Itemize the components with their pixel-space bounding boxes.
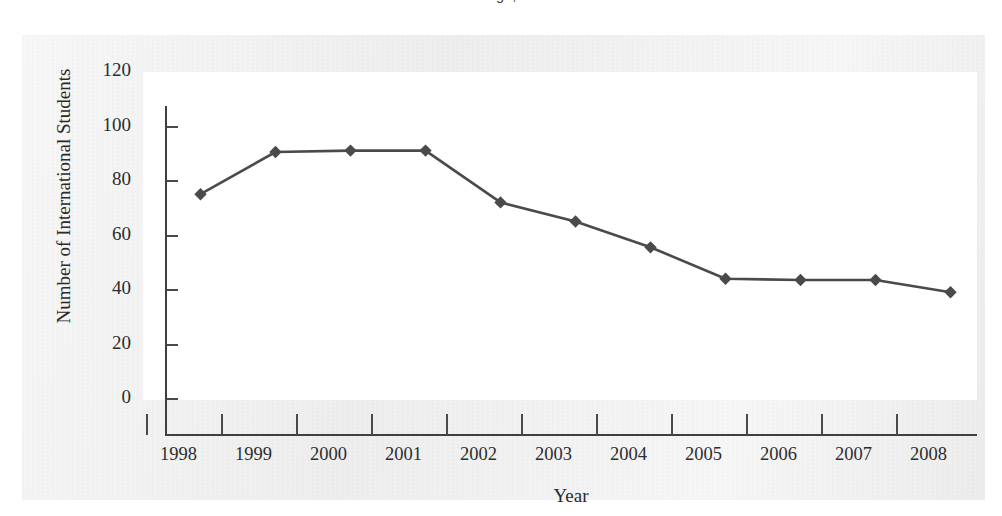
figure-number-label: FIGURE 10.1 (18, 0, 115, 4)
x-axis-tick (446, 414, 448, 435)
figure-panel: 120100806040200 199819992000200120022003… (22, 35, 985, 500)
x-axis-tick-label: 2003 (514, 444, 594, 465)
x-axis-tick (521, 414, 523, 435)
x-axis-tick (596, 414, 598, 435)
x-axis-tick-label: 2001 (364, 444, 444, 465)
x-axis-tick (146, 414, 148, 435)
x-axis-tick-label: 1999 (214, 444, 294, 465)
figure-caption: FIGURE 10.1 International Student Enroll… (0, 0, 1002, 8)
y-axis-line (165, 106, 167, 436)
y-axis-title: Number of International Students (53, 31, 75, 361)
x-axis-tick (671, 414, 673, 435)
x-axis-tick-label: 2008 (889, 444, 969, 465)
x-axis-line (165, 434, 977, 436)
x-axis-tick-label: 2004 (589, 444, 669, 465)
y-axis-tick (167, 180, 178, 182)
y-axis-tick-label: 0 (77, 386, 131, 408)
y-axis-tick (167, 344, 178, 346)
x-axis-tick (371, 414, 373, 435)
y-axis-tick-label: 20 (77, 332, 131, 354)
y-axis-tick-label: 80 (77, 168, 131, 190)
y-axis-tick-label: 40 (77, 277, 131, 299)
x-axis-tick-label: 2002 (439, 444, 519, 465)
y-axis-tick-label: 60 (77, 223, 131, 245)
x-axis-tick (746, 414, 748, 435)
x-axis-tick-label: 2007 (814, 444, 894, 465)
plot-canvas (143, 72, 977, 400)
x-axis-tick (296, 414, 298, 435)
x-axis-tick (821, 414, 823, 435)
y-axis-tick (167, 126, 178, 128)
x-axis-tick-label: 2000 (289, 444, 369, 465)
x-axis-tick-label: 2005 (664, 444, 744, 465)
x-axis-title: Year (165, 485, 977, 507)
x-axis-tick-label: 1998 (139, 444, 219, 465)
y-axis-tick (167, 398, 178, 400)
x-axis-tick (221, 414, 223, 435)
y-axis-tick (167, 289, 178, 291)
y-axis-tick (167, 235, 178, 237)
figure-caption-text: International Student Enrollment at Rive… (166, 0, 594, 3)
x-axis-tick-label: 2006 (739, 444, 819, 465)
x-axis-tick (896, 414, 898, 435)
y-axis-tick-label: 100 (77, 114, 131, 136)
y-axis-tick-label: 120 (77, 59, 131, 81)
